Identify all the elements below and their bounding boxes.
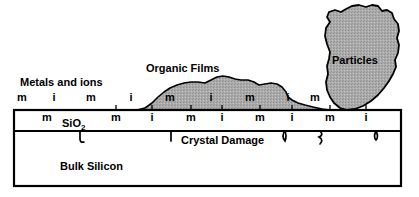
- label-particles: Particles: [332, 54, 378, 66]
- diagram-canvas: Metals and ions Organic Films Particles …: [0, 0, 419, 197]
- contaminant-symbol: m: [255, 111, 265, 123]
- contaminant-symbol: m: [165, 91, 175, 103]
- contaminant-symbol: i: [209, 91, 212, 103]
- contaminant-symbol: i: [286, 91, 289, 103]
- contaminant-symbol: m: [17, 91, 27, 103]
- contaminant-symbol: i: [150, 111, 153, 123]
- defect-mark: [168, 131, 174, 141]
- contaminant-symbol: m: [186, 111, 196, 123]
- label-crystal-damage: Crystal Damage: [181, 134, 264, 146]
- contaminant-symbol: i: [290, 111, 293, 123]
- contaminant-symbol: m: [42, 111, 52, 123]
- contaminant-symbol: m: [310, 91, 320, 103]
- sio2-text: SiO: [62, 117, 81, 129]
- contaminant-symbol: m: [111, 111, 121, 123]
- defect-mark: [375, 131, 378, 140]
- label-organic-films: Organic Films: [146, 62, 219, 74]
- label-sio2: SiO2: [62, 117, 86, 132]
- defect-mark: [80, 131, 84, 142]
- contaminant-symbol: i: [129, 91, 132, 103]
- contaminant-symbol: m: [245, 91, 255, 103]
- contamination-diagram: Metals and ions Organic Films Particles …: [0, 0, 419, 197]
- defect-mark: [283, 131, 286, 141]
- sio2-subscript: 2: [81, 123, 86, 132]
- oxide-contaminant-row: mmimimimi: [42, 111, 367, 123]
- contaminant-symbol: i: [52, 91, 55, 103]
- label-bulk-silicon: Bulk Silicon: [60, 160, 123, 172]
- contaminant-symbol: m: [325, 111, 335, 123]
- defect-mark: [319, 131, 322, 144]
- contaminant-symbol: i: [220, 111, 223, 123]
- label-metals-and-ions: Metals and ions: [20, 76, 103, 88]
- contaminant-symbol: m: [86, 91, 96, 103]
- contaminant-symbol: i: [364, 111, 367, 123]
